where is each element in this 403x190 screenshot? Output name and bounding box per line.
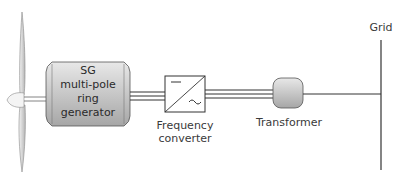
generator-label-line: multi-pole [48, 78, 128, 92]
converter-label-line2: converter [152, 132, 218, 145]
generator-label-line: generator [48, 106, 128, 120]
generator-label-line: ring [48, 92, 128, 106]
transformer-icon [273, 78, 303, 108]
converter-label-line1: Frequency [152, 119, 218, 132]
generator-label-line: SG [48, 64, 128, 78]
grid-label: Grid [366, 21, 396, 34]
transformer-label: Transformer [252, 116, 326, 129]
three-phase-lines-1 [130, 92, 165, 100]
shaft [24, 97, 48, 101]
three-phase-lines-2 [205, 90, 273, 98]
generator-label: SG multi-pole ring generator [48, 64, 128, 120]
converter-icon [165, 76, 205, 112]
converter-label: Frequency converter [152, 119, 218, 145]
turbine-icon [7, 12, 25, 172]
